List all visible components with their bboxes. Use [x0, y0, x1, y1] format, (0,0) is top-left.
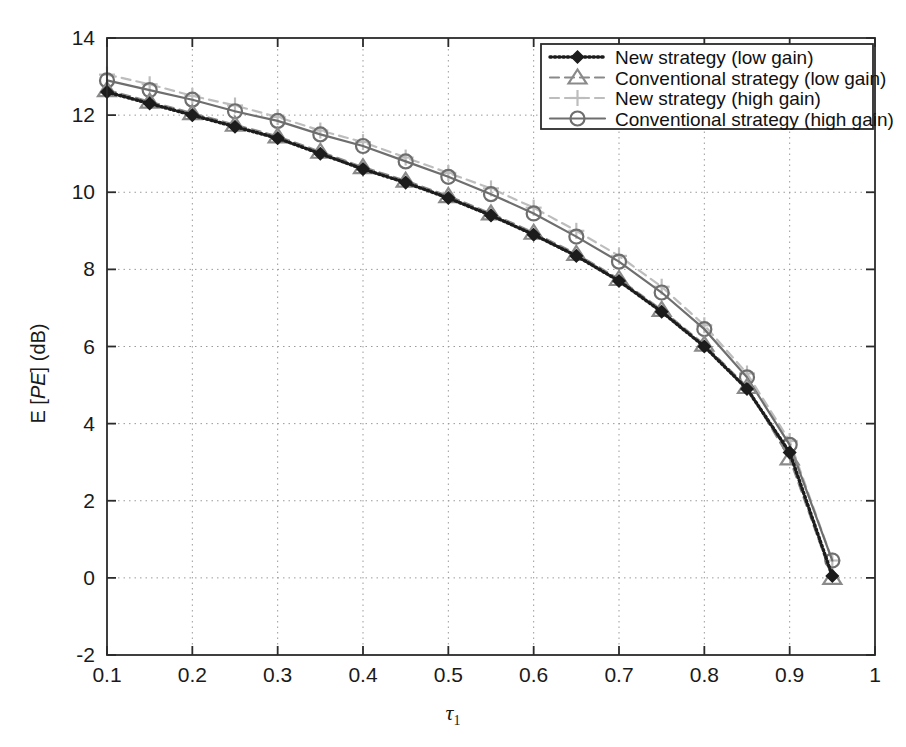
chart-canvas: 0.10.20.30.40.50.60.70.80.91-20246810121… — [0, 0, 906, 747]
x-axis-tick-label: 1 — [869, 663, 881, 686]
y-axis-tick-label: 6 — [83, 335, 95, 358]
chart-figure: 0.10.20.30.40.50.60.70.80.91-20246810121… — [0, 0, 906, 747]
y-axis-tick-label: -2 — [76, 643, 95, 666]
legend-item-label: New strategy (low gain) — [615, 47, 814, 68]
x-axis-tick-label: 0.4 — [348, 663, 378, 686]
y-axis-tick-label: 12 — [72, 103, 95, 126]
x-axis-tick-label: 0.7 — [604, 663, 633, 686]
x-axis-tick-label: 0.2 — [178, 663, 207, 686]
y-axis-tick-label: 2 — [83, 489, 95, 512]
x-axis-tick-label: 0.8 — [690, 663, 719, 686]
x-axis-tick-label: 0.5 — [434, 663, 463, 686]
y-axis-tick-label: 4 — [83, 412, 95, 435]
y-axis-label: E [PE] (dB) — [18, 0, 58, 747]
legend-item-label: Conventional strategy (high gain) — [615, 109, 894, 130]
y-axis-tick-label: 10 — [72, 180, 95, 203]
x-axis-tick-label: 0.3 — [263, 663, 292, 686]
x-axis-tick-label: 0.1 — [92, 663, 121, 686]
legend-item-label: Conventional strategy (low gain) — [615, 68, 886, 89]
legend-item-label: New strategy (high gain) — [615, 88, 821, 109]
x-axis-tick-label: 0.9 — [775, 663, 804, 686]
y-axis-tick-label: 14 — [72, 26, 96, 49]
y-axis-tick-label: 0 — [83, 566, 95, 589]
x-axis-label: τ1 — [0, 700, 906, 729]
plot-background — [107, 38, 875, 655]
y-axis-tick-label: 8 — [83, 257, 95, 280]
x-axis-tick-label: 0.6 — [519, 663, 548, 686]
